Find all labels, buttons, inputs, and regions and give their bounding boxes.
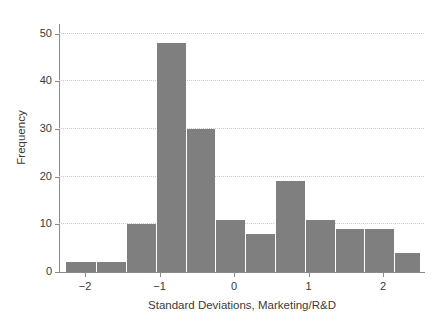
plot-area (59, 24, 424, 272)
x-axis-tick-label: 2 (368, 280, 398, 292)
y-axis-tick-mark (55, 272, 59, 273)
histogram-bar (156, 43, 186, 272)
histogram-bar (215, 220, 245, 272)
x-axis-tick-label: −2 (70, 280, 100, 292)
histogram-bar (66, 262, 96, 272)
x-axis-tick-label: −1 (145, 280, 175, 292)
gridline (59, 176, 424, 177)
y-axis-tick-mark (55, 177, 59, 178)
histogram-bar (96, 262, 126, 272)
histogram-figure: Frequency 01020304050 Standard Deviation… (0, 0, 437, 327)
x-axis-line (59, 272, 425, 273)
x-axis-title: Standard Deviations, Marketing/R&D (59, 298, 425, 312)
y-axis-tick-label: 10 (30, 218, 52, 229)
y-axis-tick-mark (55, 129, 59, 130)
x-axis-tick-label: 0 (219, 280, 249, 292)
y-axis-tick-label: 0 (30, 266, 52, 277)
histogram-bar (245, 234, 275, 272)
y-axis-tick-mark (55, 224, 59, 225)
x-axis-tick-label: 1 (294, 280, 324, 292)
gridline (59, 33, 424, 34)
x-axis-tick-mark (85, 273, 86, 277)
y-axis-tick-label: 50 (30, 28, 52, 39)
gridline (59, 80, 424, 81)
histogram-bar (126, 224, 156, 272)
y-axis-tick-label: 20 (30, 171, 52, 182)
histogram-bar (186, 129, 216, 272)
histogram-bar (364, 229, 394, 272)
x-axis-tick-mark (309, 273, 310, 277)
y-axis-tick-mark (55, 81, 59, 82)
x-axis-tick-mark (234, 273, 235, 277)
histogram-bar (305, 220, 335, 272)
y-axis-tick-label: 30 (30, 123, 52, 134)
x-axis-tick-mark (160, 273, 161, 277)
x-axis-tick-mark (383, 273, 384, 277)
gridline (59, 128, 424, 129)
y-axis-tick-labels: 01020304050 (26, 0, 52, 327)
histogram-bar (394, 253, 420, 272)
y-axis-tick-mark (55, 34, 59, 35)
y-axis-tick-label: 40 (30, 75, 52, 86)
histogram-bar (335, 229, 365, 272)
histogram-bar (275, 181, 305, 272)
